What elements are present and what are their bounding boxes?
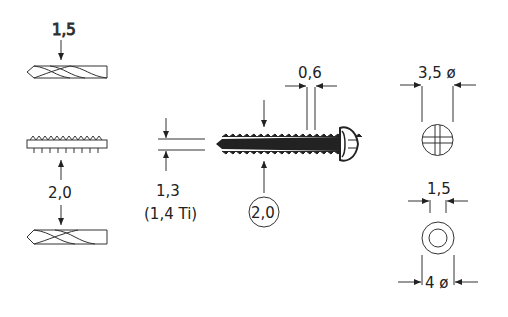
thread-diameter-label: 2,0 (251, 204, 275, 222)
tap-threads-bottom (34, 148, 98, 153)
screw-head-cross-slot (400, 85, 476, 156)
washer-outer-circle (422, 222, 454, 254)
core-diameter-label: 1,3 (156, 182, 180, 200)
tap-drill-label: 2,0 (48, 184, 72, 202)
hex-socket-label: 1,5 (427, 180, 451, 198)
thread-pitch-label: 0,6 (298, 64, 322, 82)
head-circle (422, 125, 453, 156)
drill-flutes (34, 66, 107, 78)
drill-bit-2-0 (27, 230, 107, 244)
drill-bit-1-5: 1,5 (27, 21, 107, 78)
technical-drawing: 1,5 2,0 1,3 (1,4 Ti) (0, 0, 508, 317)
screw-shank (216, 137, 340, 151)
hex-socket-icon (429, 229, 447, 247)
head-diameter-label: 3,5 ø (418, 64, 456, 82)
washer-diameter-label: 4 ø (425, 274, 449, 292)
tap-shaft (27, 140, 107, 148)
tap-threads-top (30, 136, 102, 140)
screw-threads-bottom (222, 151, 355, 154)
core-diameter-dimension (158, 118, 205, 171)
tap (27, 136, 107, 153)
hex-socket-head (398, 200, 478, 285)
thread-pitch-dimension (285, 86, 337, 130)
drill-1-5-label: 1,5 (52, 21, 76, 39)
core-diameter-ti-label: (1,4 Ti) (144, 205, 197, 223)
drill-flutes (34, 230, 95, 244)
cortex-screw (216, 127, 362, 160)
